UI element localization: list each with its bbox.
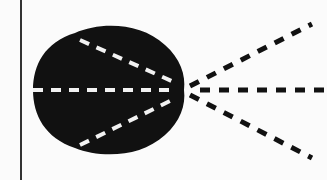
ray-diagram — [0, 0, 327, 180]
external-rays — [190, 24, 324, 158]
diagram-canvas — [0, 0, 327, 180]
external-ray-lower — [190, 95, 312, 158]
external-ray-upper — [190, 24, 312, 86]
